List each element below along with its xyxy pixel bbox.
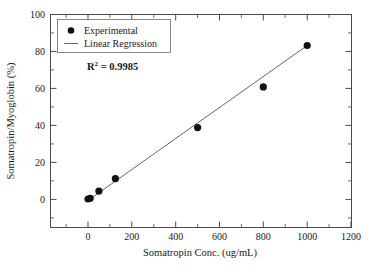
- legend-marker-icon: [68, 27, 75, 34]
- y-tick-labels: 0 20 40 60 80 100: [30, 9, 45, 205]
- scatter-plot-canvas: 0 200 400 600 800 1000 1200 0 20 40 60 8…: [0, 0, 375, 274]
- r-squared-annotation: R2 = 0.9985: [87, 60, 138, 72]
- data-point: [95, 188, 102, 195]
- y-axis-title: Somatropin/Myoglobin (%): [5, 62, 17, 179]
- x-tick-label: 800: [256, 231, 271, 242]
- chart-figure: 0 200 400 600 800 1000 1200 0 20 40 60 8…: [0, 0, 375, 274]
- legend-label-linear-regression: Linear Regression: [84, 38, 157, 49]
- x-tick-label: 1000: [297, 231, 317, 242]
- x-tick-label: 600: [212, 231, 227, 242]
- x-tick-labels: 0 200 400 600 800 1000 1200: [86, 231, 362, 242]
- y-tick-label: 0: [40, 194, 45, 205]
- r-squared-value: = 0.9985: [98, 61, 138, 72]
- x-tick-label: 0: [86, 231, 91, 242]
- data-point: [112, 175, 119, 182]
- y-tick-label: 40: [35, 120, 45, 131]
- x-axis-title: Somatropin Conc. (ug/mL): [143, 247, 258, 259]
- data-point: [304, 42, 311, 49]
- legend-label-experimental: Experimental: [84, 25, 138, 36]
- x-tick-label: 400: [168, 231, 183, 242]
- x-tick-label: 200: [124, 231, 139, 242]
- legend: Experimental Linear Regression: [58, 20, 171, 53]
- data-point: [260, 83, 267, 90]
- data-point: [87, 195, 94, 202]
- x-tick-label: 1200: [341, 231, 361, 242]
- y-tick-label: 60: [35, 83, 45, 94]
- data-point: [194, 124, 201, 131]
- y-tick-label: 20: [35, 157, 45, 168]
- y-tick-label: 80: [35, 46, 45, 57]
- y-tick-label: 100: [30, 9, 45, 20]
